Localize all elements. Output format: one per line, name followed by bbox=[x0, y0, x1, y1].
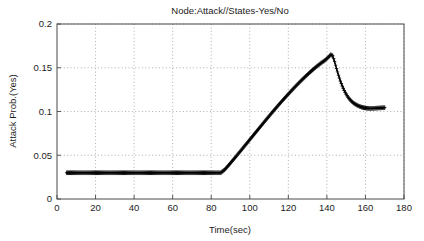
y-axis-label: Attack Prob.(Yes) bbox=[7, 74, 18, 148]
y-tick-label: 0 bbox=[47, 193, 52, 204]
x-tick-label: 100 bbox=[242, 202, 258, 213]
x-tick-label: 140 bbox=[319, 202, 335, 213]
x-tick-label: 60 bbox=[167, 202, 178, 213]
attack-probability-chart: 020406080100120140160180 00.050.10.150.2… bbox=[0, 0, 424, 241]
y-tick-label: 0.2 bbox=[39, 18, 52, 29]
chart-title: Node:Attack//States-Yes/No bbox=[171, 5, 288, 16]
y-tick-label: 0.05 bbox=[34, 150, 53, 161]
x-tick-label: 80 bbox=[206, 202, 217, 213]
x-tick-label: 20 bbox=[90, 202, 101, 213]
y-tick-label: 0.15 bbox=[34, 62, 53, 73]
x-axis-label: Time(sec) bbox=[209, 224, 251, 235]
x-tick-label: 180 bbox=[396, 202, 412, 213]
x-tick-label: 40 bbox=[129, 202, 140, 213]
x-tick-label: 160 bbox=[358, 202, 374, 213]
y-tick-label: 0.1 bbox=[39, 106, 52, 117]
x-tick-label: 0 bbox=[54, 202, 59, 213]
x-tick-label: 120 bbox=[280, 202, 296, 213]
figure-container: 020406080100120140160180 00.050.10.150.2… bbox=[0, 0, 424, 241]
